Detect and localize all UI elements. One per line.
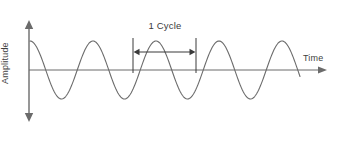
cycle-annotation-label: 1 Cycle	[135, 20, 195, 31]
y-axis-label: Amplitude	[0, 52, 10, 84]
y-axis-arrowhead-up-icon	[25, 20, 33, 29]
cycle-arrowhead-right-icon	[190, 49, 196, 55]
x-axis-label: Time	[303, 53, 323, 63]
cycle-arrowhead-left-icon	[134, 49, 140, 55]
x-axis-arrowhead-icon	[318, 66, 327, 73]
y-axis-arrowhead-down-icon	[25, 113, 33, 122]
waveform-figure: Amplitude Time 1 Cycle	[0, 0, 339, 141]
